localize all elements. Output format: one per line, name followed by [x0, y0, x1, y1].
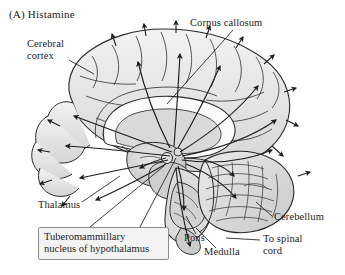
callout-line-1: Tuberomammillary [44, 231, 168, 243]
tuberomammillary-nucleus-callout: Tuberomammillary nucleus of hypothalamus [38, 227, 169, 260]
histamine-brain-figure: (A) Histamine [0, 0, 345, 275]
label-cerebellum: Cerebellum [274, 211, 324, 223]
label-pons: Pons [184, 232, 205, 244]
cortex-group [32, 29, 294, 254]
label-cerebral-cortex: Cerebral cortex [27, 38, 64, 61]
label-thalamus: Thalamus [38, 199, 80, 211]
leader-to-spinal-cord [226, 238, 260, 240]
label-to-spinal-cord: To spinal cord [263, 233, 303, 256]
leader-box-left [90, 166, 164, 227]
mammillary-body [162, 153, 173, 164]
label-corpus-callosum: Corpus callosum [190, 17, 262, 29]
label-medulla: Medulla [204, 246, 240, 258]
callout-line-2: nucleus of hypothalamus [44, 243, 168, 255]
